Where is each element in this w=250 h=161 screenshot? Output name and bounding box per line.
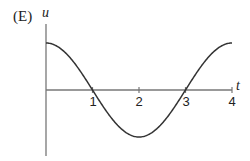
x-tick-label-4: 4 [228, 94, 235, 109]
x-tick-label-3: 3 [182, 94, 189, 109]
plot-area [0, 0, 250, 161]
x-axis-label: t [236, 78, 240, 94]
y-axis-label: u [42, 5, 49, 21]
graph-figure: (E) u t 1 2 3 4 [0, 0, 250, 161]
panel-label: (E) [13, 8, 32, 25]
x-tick-label-1: 1 [89, 94, 96, 109]
x-tick-label-2: 2 [135, 94, 142, 109]
